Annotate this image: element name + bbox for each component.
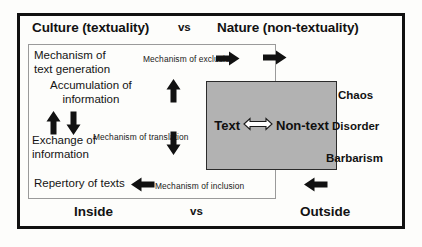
label-line-2: text generation [34, 63, 110, 77]
double-headed-arrow-icon [243, 117, 273, 135]
caption-mechanism-of-inclusion: Mechanism of inclusion [155, 181, 244, 191]
footer-label-inside: Inside [74, 204, 113, 219]
label-accumulation-of-information: Accumulation of information [50, 79, 132, 106]
arrow-left-inclusion-inner [131, 177, 155, 192]
label-exchange-of-information: Exchange of information [32, 134, 96, 161]
label-mechanism-of-text-generation: Mechanism of text generation [34, 49, 110, 76]
outside-term-disorder: Disorder [332, 120, 379, 132]
arrow-up-accumulation [46, 111, 61, 135]
label-line-1: Mechanism of [34, 49, 110, 63]
outside-term-chaos: Chaos [338, 89, 373, 101]
footer-label-vs: vs [190, 205, 203, 217]
arrow-down-translation [166, 131, 181, 155]
header-row: Culture (textuality) vs Nature (non-text… [20, 20, 402, 42]
arrow-right-exclusion-inner [216, 51, 240, 66]
header-label-vs: vs [178, 21, 191, 33]
arrow-up-translation [166, 79, 181, 103]
label-line-1: Accumulation of [50, 79, 132, 93]
label-repertory-of-texts: Repertory of texts [34, 177, 125, 191]
outside-term-barbarism: Barbarism [326, 152, 383, 164]
arrow-left-inclusion-outer [304, 177, 328, 192]
label-line-2: information [50, 93, 132, 107]
header-label-nature: Nature (non-textuality) [217, 20, 359, 35]
center-label-nontext: Non-text [276, 118, 329, 133]
label-line-2: information [32, 148, 96, 162]
header-label-culture: Culture (textuality) [32, 20, 149, 35]
center-box-row: Text Non-text [207, 117, 336, 135]
arrow-right-exclusion-outer [263, 50, 287, 65]
footer-label-outside: Outside [300, 204, 350, 219]
label-line-1: Exchange of [32, 134, 96, 148]
semiotic-diagram: Culture (textuality) vs Nature (non-text… [17, 13, 405, 229]
center-label-text: Text [214, 118, 240, 133]
arrow-down-accumulation [66, 111, 81, 135]
center-text-nontext-box: Text Non-text [206, 81, 337, 170]
